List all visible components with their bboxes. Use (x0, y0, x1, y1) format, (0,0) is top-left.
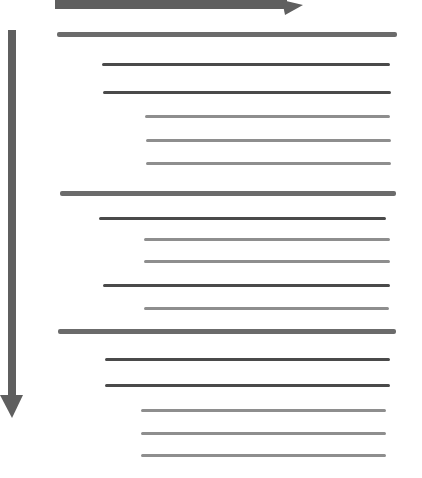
outline-item-level-3 (144, 260, 390, 263)
outline-item-level-3 (146, 162, 391, 165)
outline-item-level-2 (99, 217, 386, 220)
outline-item-level-2 (103, 91, 391, 94)
outline-item-level-3 (144, 307, 389, 310)
horizontal-arrow (55, 0, 303, 15)
outline-item-level-1 (60, 191, 396, 196)
outline-item-level-3 (145, 115, 390, 118)
outline-item-level-1 (58, 329, 396, 334)
outline-item-level-3 (141, 432, 386, 435)
vertical-arrow (0, 30, 23, 418)
outline-item-level-2 (103, 284, 390, 287)
outline-item-level-1 (57, 32, 397, 37)
outline-item-level-3 (146, 139, 391, 142)
outline-diagram (0, 0, 422, 478)
outline-item-level-2 (102, 63, 390, 66)
outline-item-level-2 (105, 384, 390, 387)
outline-item-level-3 (141, 454, 386, 457)
outline-item-level-2 (105, 358, 390, 361)
outline-item-level-3 (144, 238, 390, 241)
outline-item-level-3 (141, 409, 386, 412)
